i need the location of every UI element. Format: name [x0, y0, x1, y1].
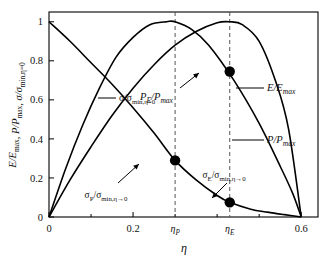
y-tick-1: 0.2: [30, 173, 43, 184]
x-tick-2: 0.6: [295, 223, 308, 234]
y-tick-5: 1: [38, 16, 43, 27]
y-tick-2: 0.4: [30, 134, 44, 145]
marker-sigmaE-at-etaE: [225, 197, 235, 207]
x-tick-1: 0.2: [127, 223, 140, 234]
x-tick-0: 0: [46, 223, 51, 234]
y-tick-0: 0: [38, 212, 43, 223]
chart-svg: 00.20.40.60.81 00.20.6 ηP ηE σ/σmin,η=0 …: [0, 0, 332, 266]
x-axis-title: η: [181, 241, 187, 255]
y-tick-3: 0.6: [30, 94, 43, 105]
marker-sigma-at-etaP: [170, 155, 180, 165]
chart-figure: 00.20.40.60.81 00.20.6 ηP ηE σ/σmin,η=0 …: [0, 0, 332, 266]
marker-PE-at-etaE: [225, 66, 235, 76]
y-tick-4: 0.8: [30, 55, 43, 66]
